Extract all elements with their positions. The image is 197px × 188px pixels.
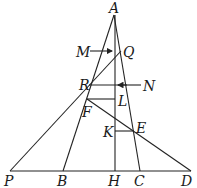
segment-AB bbox=[63, 15, 114, 171]
label-E: E bbox=[135, 120, 146, 136]
label-A: A bbox=[107, 0, 119, 16]
label-Q: Q bbox=[123, 44, 135, 60]
label-H: H bbox=[107, 173, 121, 188]
label-B: B bbox=[56, 173, 67, 188]
label-P: P bbox=[3, 173, 14, 188]
label-K: K bbox=[102, 124, 115, 140]
label-L: L bbox=[117, 93, 127, 109]
label-C: C bbox=[134, 173, 145, 188]
label-R: R bbox=[78, 77, 90, 93]
label-N: N bbox=[142, 78, 156, 94]
label-F: F bbox=[81, 104, 93, 120]
geometry-diagram: A Q M N R L F E K P B H C D bbox=[0, 0, 197, 188]
label-D: D bbox=[180, 173, 192, 188]
label-M: M bbox=[75, 44, 91, 60]
